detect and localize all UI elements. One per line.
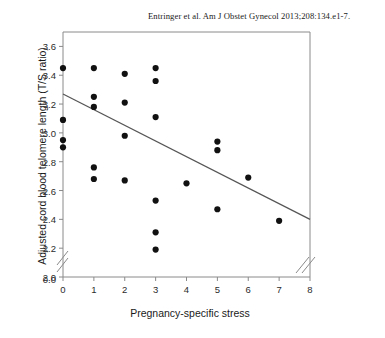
plot-canvas: [0, 0, 385, 338]
data-point: [122, 100, 128, 106]
x-axis-title: Pregnancy-specific stress: [60, 307, 320, 319]
break-slash-3: [296, 257, 309, 273]
data-point-group: [60, 65, 282, 253]
data-point: [153, 198, 159, 204]
plot-frame: [63, 32, 310, 277]
data-point: [91, 104, 97, 110]
data-point: [60, 65, 66, 71]
x-tick-group: [63, 277, 310, 281]
regression-line: [63, 94, 310, 219]
data-point: [276, 218, 282, 224]
citation-text: Entringer et al. Am J Obstet Gynecol 201…: [148, 11, 384, 21]
data-point: [122, 133, 128, 139]
data-point: [153, 78, 159, 84]
data-point: [60, 144, 66, 150]
y-axis-title: Adjusted cord blood telomere length (T/S…: [36, 31, 48, 281]
data-point: [214, 147, 220, 153]
data-point: [153, 247, 159, 253]
data-point: [153, 114, 159, 120]
data-point: [91, 94, 97, 100]
break-slash-4: [302, 257, 315, 273]
data-point: [91, 65, 97, 71]
data-point: [122, 71, 128, 77]
data-point: [91, 164, 97, 170]
data-point: [214, 206, 220, 212]
data-point: [245, 174, 251, 180]
data-point: [60, 137, 66, 143]
y-tick-group: [59, 46, 63, 277]
data-point: [153, 65, 159, 71]
data-point: [183, 180, 189, 186]
scatter-plot-figure: Entringer et al. Am J Obstet Gynecol 201…: [0, 0, 385, 338]
data-point: [122, 177, 128, 183]
data-point: [153, 229, 159, 235]
x-axis-break-icon: [296, 257, 315, 273]
data-point: [214, 138, 220, 144]
data-point: [91, 176, 97, 182]
data-point: [60, 117, 66, 123]
